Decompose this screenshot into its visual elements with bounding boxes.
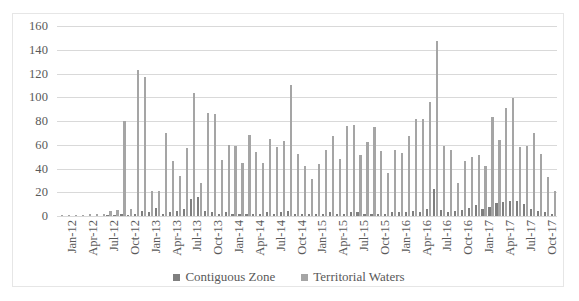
- bar-territorial-waters: [297, 154, 299, 216]
- bar-contiguous-zone: [350, 212, 352, 216]
- bar-territorial-waters: [228, 145, 230, 216]
- bar-group: [488, 26, 495, 216]
- bar-group: [321, 26, 328, 216]
- bar-contiguous-zone: [204, 211, 206, 216]
- x-axis-tick-label: Jul-15: [357, 220, 372, 251]
- y-axis: 020406080100120140160: [13, 26, 53, 216]
- x-axis-tick-label: Oct-16: [461, 220, 476, 255]
- bar-territorial-waters: [290, 85, 292, 216]
- bar-group: [550, 26, 557, 216]
- bar-territorial-waters: [61, 215, 63, 216]
- y-axis-tick-label: 40: [35, 161, 48, 176]
- bar-contiguous-zone: [454, 211, 456, 216]
- bar-group: [126, 26, 133, 216]
- bar-group: [383, 26, 390, 216]
- bar-group: [335, 26, 342, 216]
- bar-contiguous-zone: [405, 212, 407, 216]
- bar-contiguous-zone: [308, 214, 310, 216]
- bar-contiguous-zone: [433, 189, 435, 216]
- x-axis-tick-label: Oct-12: [128, 220, 143, 255]
- bar-group: [446, 26, 453, 216]
- bar-contiguous-zone: [162, 214, 164, 216]
- bar-territorial-waters: [276, 147, 278, 216]
- bar-group: [522, 26, 529, 216]
- bar-group: [432, 26, 439, 216]
- bar-territorial-waters: [96, 214, 98, 216]
- y-axis-tick-label: 20: [35, 185, 48, 200]
- bar-territorial-waters: [75, 215, 77, 216]
- bar-territorial-waters: [380, 151, 382, 216]
- y-axis-tick-label: 120: [29, 66, 48, 81]
- bar-contiguous-zone: [475, 205, 477, 216]
- bar-territorial-waters: [484, 166, 486, 216]
- bar-territorial-waters: [346, 126, 348, 216]
- bar-territorial-waters: [193, 93, 195, 217]
- bar-group: [529, 26, 536, 216]
- bar-territorial-waters: [366, 142, 368, 216]
- bar-group: [147, 26, 154, 216]
- bar-contiguous-zone: [384, 214, 386, 216]
- bar-group: [203, 26, 210, 216]
- bar-contiguous-zone: [106, 215, 108, 216]
- bar-group: [265, 26, 272, 216]
- bar-territorial-waters: [269, 139, 271, 216]
- bar-territorial-waters: [408, 136, 410, 216]
- bar-group: [175, 26, 182, 216]
- bar-territorial-waters: [248, 135, 250, 216]
- bar-territorial-waters: [234, 146, 236, 216]
- bar-group: [64, 26, 71, 216]
- bar-territorial-waters: [429, 102, 431, 216]
- bar-group: [453, 26, 460, 216]
- bar-contiguous-zone: [113, 215, 115, 216]
- bar-contiguous-zone: [336, 214, 338, 216]
- bar-contiguous-zone: [301, 214, 303, 216]
- bar-group: [342, 26, 349, 216]
- bar-territorial-waters: [505, 108, 507, 216]
- legend-item[interactable]: Contiguous Zone: [173, 269, 275, 285]
- bar-territorial-waters: [200, 183, 202, 216]
- plot-wrapper: 020406080100120140160 Jan-12Apr-12Jul-12…: [13, 14, 565, 288]
- bar-group: [508, 26, 515, 216]
- bar-contiguous-zone: [197, 197, 199, 216]
- bar-contiguous-zone: [447, 212, 449, 216]
- bar-series-group: [57, 26, 557, 216]
- bar-group: [425, 26, 432, 216]
- bar-territorial-waters: [478, 155, 480, 216]
- bar-group: [133, 26, 140, 216]
- bar-territorial-waters: [214, 114, 216, 216]
- bar-territorial-waters: [68, 215, 70, 216]
- bar-contiguous-zone: [190, 199, 192, 216]
- bar-territorial-waters: [512, 98, 514, 216]
- bar-territorial-waters: [241, 163, 243, 216]
- x-axis-tick-label: Jul-14: [274, 220, 289, 251]
- bar-contiguous-zone: [440, 210, 442, 216]
- bar-territorial-waters: [394, 150, 396, 217]
- bar-contiguous-zone: [391, 212, 393, 216]
- bar-territorial-waters: [165, 133, 167, 216]
- bar-contiguous-zone: [280, 212, 282, 216]
- bar-territorial-waters: [116, 210, 118, 216]
- bar-contiguous-zone: [537, 211, 539, 216]
- bar-group: [224, 26, 231, 216]
- bar-contiguous-zone: [134, 214, 136, 216]
- x-axis-tick-label: Oct-15: [378, 220, 393, 255]
- bar-group: [481, 26, 488, 216]
- x-axis-tick-label: Jul-12: [107, 220, 122, 251]
- bar-group: [370, 26, 377, 216]
- x-axis-tick-label: Apr-17: [503, 220, 518, 256]
- bar-group: [161, 26, 168, 216]
- legend-swatch-icon: [173, 274, 180, 281]
- legend-item[interactable]: Territorial Waters: [301, 269, 404, 285]
- bar-territorial-waters: [519, 147, 521, 216]
- bar-territorial-waters: [457, 183, 459, 216]
- bar-territorial-waters: [373, 127, 375, 216]
- legend-label: Territorial Waters: [313, 269, 404, 285]
- bar-group: [328, 26, 335, 216]
- x-axis-tick-label: Apr-14: [253, 220, 268, 256]
- bar-territorial-waters: [443, 146, 445, 216]
- bar-contiguous-zone: [169, 212, 171, 216]
- y-axis-tick-label: 0: [42, 209, 48, 224]
- bar-contiguous-zone: [183, 209, 185, 216]
- bar-territorial-waters: [158, 191, 160, 216]
- bar-contiguous-zone: [273, 214, 275, 216]
